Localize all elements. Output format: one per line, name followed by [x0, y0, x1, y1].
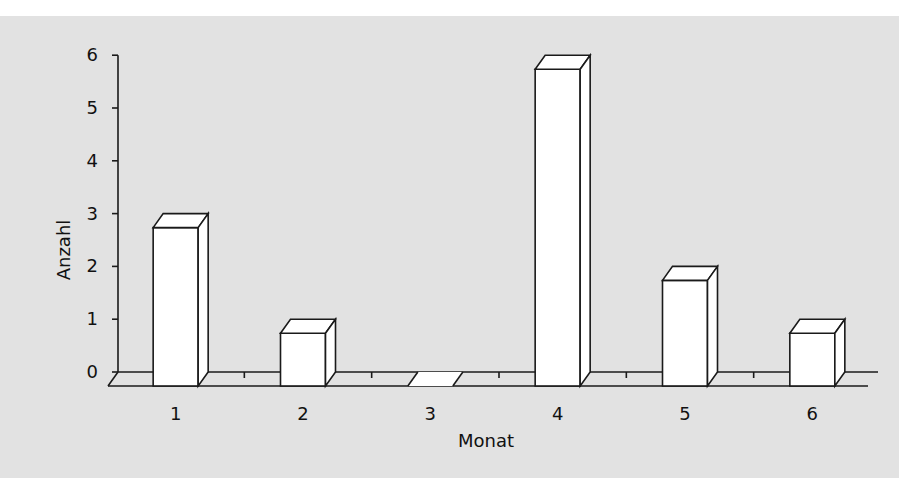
x-tick-label: 3: [425, 403, 436, 424]
x-tick-label: 5: [679, 403, 690, 424]
bar: [535, 55, 590, 386]
y-tick-label: 6: [87, 44, 98, 65]
y-tick-label: 2: [87, 255, 98, 276]
bar: [408, 372, 463, 386]
bar-chart: 0123456123456 Anzahl Monat: [0, 0, 911, 497]
chart-axes: [108, 55, 878, 386]
bar: [281, 319, 336, 386]
y-axis-title: Anzahl: [53, 220, 74, 281]
x-tick-label: 4: [552, 403, 563, 424]
x-tick-label: 2: [297, 403, 308, 424]
x-tick-label: 1: [170, 403, 181, 424]
chart-bars: [153, 55, 845, 386]
bar: [153, 214, 208, 386]
y-tick-label: 5: [87, 97, 98, 118]
x-axis-title: Monat: [458, 430, 514, 451]
bar: [663, 266, 718, 386]
x-tick-label: 6: [807, 403, 818, 424]
bar: [790, 319, 845, 386]
y-tick-label: 0: [87, 361, 98, 382]
y-tick-label: 1: [87, 308, 98, 329]
y-tick-label: 4: [87, 150, 98, 171]
y-tick-label: 3: [87, 203, 98, 224]
